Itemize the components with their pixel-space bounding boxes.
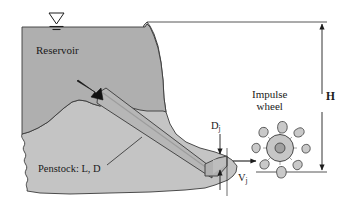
impulse-wheel-label: Impulse wheel <box>252 88 287 113</box>
bucket <box>277 166 287 178</box>
reservoir-label: Reservoir <box>36 44 79 56</box>
bucket <box>260 160 269 169</box>
bucket <box>302 144 310 153</box>
head-label: H <box>326 90 335 103</box>
impulse-wheel-label-line2: wheel <box>252 100 287 112</box>
jet-velocity-symbol: V <box>238 172 246 183</box>
bucket <box>293 160 302 169</box>
jet-diameter-subscript: j <box>219 124 221 133</box>
bucket <box>252 143 260 152</box>
impulse-wheel-label-line1: Impulse <box>252 88 287 100</box>
impulse-wheel <box>252 121 310 178</box>
bucket <box>278 121 288 133</box>
jet-diameter-label: Dj <box>211 120 221 134</box>
impulse-wheel-schematic: Reservoir Penstock: L, D Impulse wheel H… <box>0 0 337 216</box>
jet-velocity-subscript: j <box>246 176 248 185</box>
bucket <box>294 128 304 137</box>
wheel-hub <box>275 143 285 153</box>
jet-diameter-symbol: D <box>211 120 219 131</box>
bucket <box>259 127 268 137</box>
jet-velocity-label: Vj <box>238 172 248 186</box>
water-surface-triangle-icon <box>49 13 64 30</box>
penstock-label: Penstock: L, D <box>38 163 101 175</box>
